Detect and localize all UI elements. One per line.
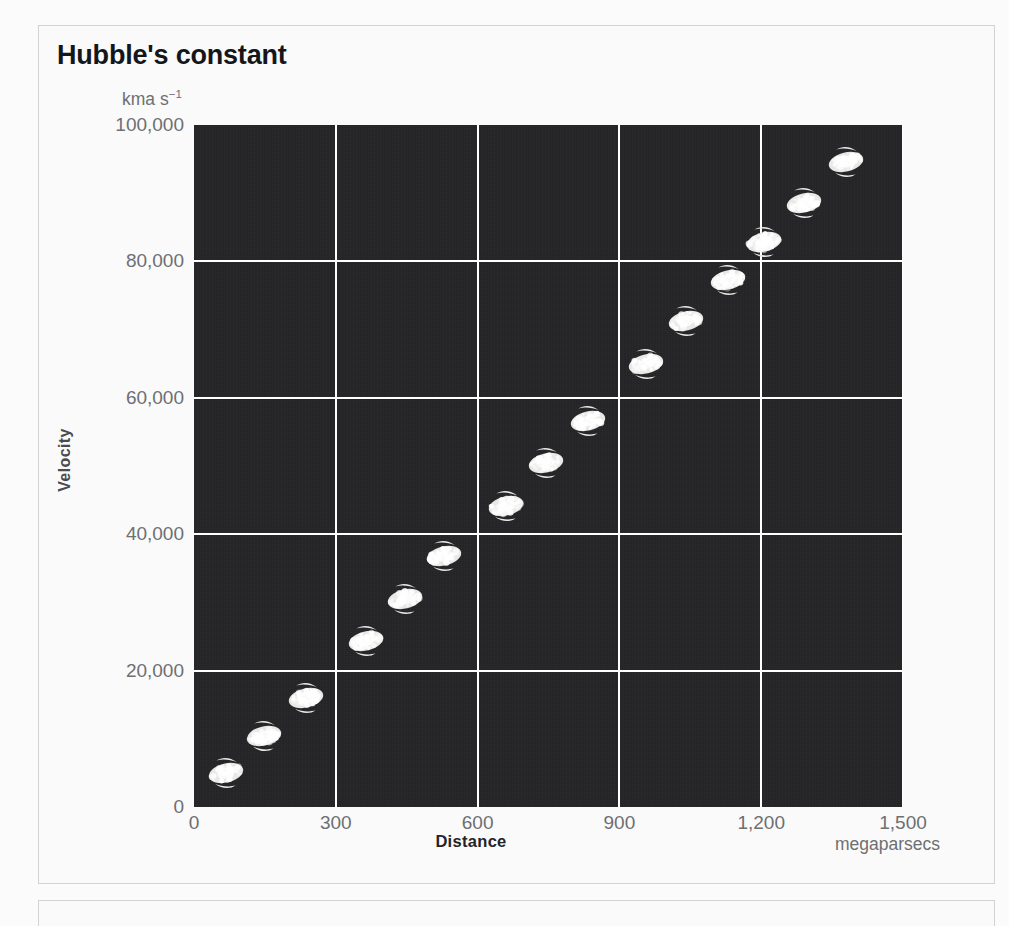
- galaxy-marker: [733, 221, 795, 263]
- figure-panel: Hubble's constant kma s−1 Velocity 020,0…: [38, 25, 995, 884]
- gridline-vertical: [902, 125, 903, 807]
- x-axis-tick-label: 900: [604, 812, 636, 834]
- x-axis-tick-label: 300: [320, 812, 352, 834]
- gridline-horizontal: [194, 533, 903, 535]
- x-axis-tick-label: 1,500: [879, 812, 927, 834]
- galaxy-marker: [655, 300, 717, 342]
- x-axis-tick-label: 1,200: [737, 812, 785, 834]
- y-axis-tick-labels: 020,00040,00060,00080,000100,000: [39, 26, 184, 883]
- gridline-horizontal: [194, 260, 903, 262]
- galaxy-marker: [557, 400, 619, 442]
- galaxy-marker: [615, 343, 677, 385]
- next-figure-panel: [38, 900, 995, 926]
- y-axis-tick-label: 20,000: [126, 660, 184, 682]
- x-axis-title: Distance: [39, 832, 903, 851]
- galaxy-marker: [475, 485, 537, 527]
- x-axis-tick-label: 600: [462, 812, 494, 834]
- y-axis-tick-label: 0: [173, 796, 184, 818]
- x-axis-unit-label: megaparsecs: [835, 834, 940, 855]
- galaxy-marker: [515, 442, 577, 484]
- galaxy-marker: [275, 677, 337, 719]
- gridline-vertical: [477, 125, 479, 807]
- galaxy-marker: [374, 578, 436, 620]
- screenshot-root: Hubble's constant kma s−1 Velocity 020,0…: [0, 0, 1009, 926]
- galaxy-marker: [697, 259, 759, 301]
- plot-area: [194, 125, 903, 807]
- galaxy-marker: [413, 535, 475, 577]
- galaxy-marker: [773, 182, 835, 224]
- y-axis-tick-label: 60,000: [126, 387, 184, 409]
- gridline-horizontal: [194, 670, 903, 672]
- y-axis-tick-label: 100,000: [115, 114, 184, 136]
- gridline-horizontal: [194, 397, 903, 399]
- y-axis-tick-label: 80,000: [126, 250, 184, 272]
- y-axis-tick-label: 40,000: [126, 523, 184, 545]
- galaxy-marker: [233, 715, 295, 757]
- x-axis-tick-label: 0: [189, 812, 200, 834]
- gridline-vertical: [618, 125, 620, 807]
- galaxy-marker: [335, 620, 397, 662]
- galaxy-marker: [815, 141, 877, 183]
- galaxy-marker: [195, 752, 257, 794]
